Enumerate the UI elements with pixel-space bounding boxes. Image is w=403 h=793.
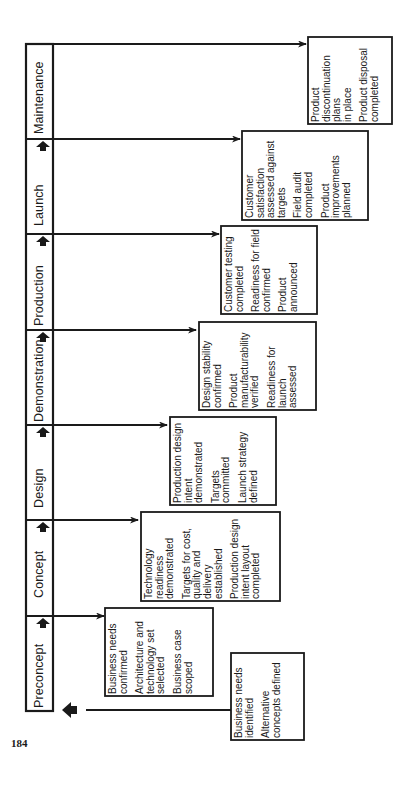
milestone-item: Production design intent demonstrated	[173, 423, 205, 503]
stage-label-launch: Launch	[32, 184, 46, 226]
stage-label-demonstration: Demonstration	[32, 339, 46, 422]
box-text-production: Customer testing completed Readiness for…	[224, 229, 306, 312]
stage-label-concept: Concept	[32, 551, 46, 598]
milestone-item: Alternative concepts defined	[261, 662, 282, 738]
stage-label-design: Design	[32, 468, 46, 508]
milestone-item: Targets committed	[211, 423, 232, 503]
milestone-item: Readiness for field confirmed	[251, 229, 272, 312]
milestone-item: Readiness for launch assessed	[267, 332, 299, 408]
stage-label-production: Production	[32, 265, 46, 326]
box-text-preconcept: Business needs confirmed Architecture an…	[108, 621, 200, 694]
milestone-item: Field audit completed	[293, 141, 314, 218]
milestone-item: Launch strategy defined	[238, 423, 259, 503]
box-text-maintenance: Product discontinuation plans in place P…	[311, 48, 387, 122]
milestone-item: Production design intent layout complete…	[230, 519, 262, 599]
box-text-demonstration: Design stability confirmed Product manuf…	[202, 332, 305, 408]
stage-label-maintenance: Maintenance	[32, 61, 46, 134]
milestone-item: Business needs identified	[234, 662, 255, 738]
milestone-item: Targets for cost, quality and delivery e…	[182, 519, 224, 599]
milestone-item: Customer satisfaction assessed against t…	[245, 141, 287, 218]
box-text-concept: Technology readiness demonstrated Target…	[144, 519, 268, 599]
milestone-item: Business case scoped	[173, 621, 194, 694]
milestone-item: Product manufacturability verified	[229, 332, 261, 408]
milestone-item: Customer testing completed	[224, 229, 245, 312]
box-text-design: Production design intent demonstrated Ta…	[173, 423, 265, 503]
milestone-item: Product announced	[278, 229, 299, 312]
stage-label-preconcept: Preconcept	[32, 644, 46, 708]
milestone-item: Technology readiness demonstrated	[144, 519, 176, 599]
product-lifecycle-diagram: Preconcept Concept Design Demonstration …	[0, 0, 403, 793]
box-text-pre-entry: Business needs identified Alternative co…	[234, 662, 288, 738]
milestone-item: Product improvements planned	[321, 141, 353, 218]
milestone-item: Design stability confirmed	[202, 332, 223, 408]
box-text-launch: Customer satisfaction assessed against t…	[245, 141, 358, 218]
milestone-item: Product discontinuation plans in place	[311, 48, 353, 122]
milestone-item: Product disposal completed	[359, 48, 380, 122]
milestone-item: Architecture and technology set selected	[135, 621, 167, 694]
milestone-item: Business needs confirmed	[108, 621, 129, 694]
page-number: 184	[11, 737, 28, 749]
